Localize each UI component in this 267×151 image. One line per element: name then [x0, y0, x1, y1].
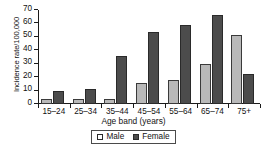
bar-male: [73, 99, 84, 104]
bar-female: [85, 89, 96, 104]
bar-male: [231, 35, 242, 104]
y-axis-tick-label: 70: [23, 4, 32, 14]
legend-swatch-male: [97, 134, 103, 140]
legend: MaleFemale: [0, 130, 267, 144]
bar-female: [116, 56, 127, 104]
bar-female: [148, 32, 159, 105]
x-axis-title: Age band (years): [0, 116, 267, 126]
legend-item-female: Female: [133, 132, 169, 142]
legend-item-male: Male: [97, 132, 124, 142]
bar-male: [136, 83, 147, 104]
bar-group: [228, 10, 260, 104]
y-axis-tick-label: 40: [23, 44, 32, 54]
legend-label: Female: [142, 132, 169, 142]
y-axis-tick-label: 30: [23, 57, 32, 67]
bar-male: [200, 64, 211, 104]
bar-female: [180, 25, 191, 104]
x-axis-tick: [260, 104, 261, 108]
incidence-rate-bar-chart: Incidence rate/100,000 010203040506070 1…: [0, 0, 267, 151]
y-axis-tick-label: 60: [23, 17, 32, 27]
bar-group: [165, 10, 197, 104]
bar-female: [53, 91, 64, 104]
bar-female: [243, 74, 254, 104]
bar-male: [41, 99, 52, 104]
legend-label: Male: [106, 132, 124, 142]
bar-male: [168, 80, 179, 104]
plot-area: 010203040506070 15–2425–3435–4445–5455–6…: [38, 10, 260, 104]
bar-group: [38, 10, 70, 104]
y-axis-tick-label: 50: [23, 30, 32, 40]
legend-swatch-female: [133, 134, 139, 140]
bar-group: [133, 10, 165, 104]
bar-male: [104, 99, 115, 104]
bar-group: [197, 10, 229, 104]
y-axis-tick-label: 0: [27, 98, 32, 108]
bar-female: [212, 15, 223, 104]
legend-box: MaleFemale: [91, 130, 175, 144]
y-axis-tick-label: 10: [23, 84, 32, 94]
bar-group: [101, 10, 133, 104]
y-axis-title: Incidence rate/100,000: [12, 3, 21, 107]
bar-group: [70, 10, 102, 104]
y-axis-tick-label: 20: [23, 71, 32, 81]
